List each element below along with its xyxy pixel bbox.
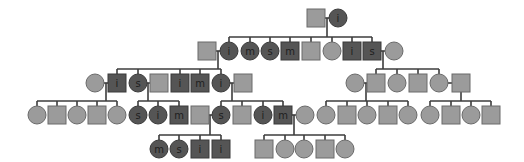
male-individual: m	[274, 106, 292, 124]
male-individual: m	[170, 106, 188, 124]
male-individual	[233, 106, 251, 124]
circle-symbol	[430, 74, 448, 92]
circle-symbol	[388, 74, 406, 92]
square-symbol	[442, 106, 460, 124]
male-individual	[88, 106, 106, 124]
square-symbol	[379, 106, 397, 124]
individual-label: m	[285, 46, 295, 57]
circle-symbol	[323, 42, 341, 60]
circle-symbol	[108, 106, 126, 124]
female-individual: s	[170, 140, 188, 158]
circle-symbol	[346, 74, 364, 92]
individual-label: m	[245, 46, 255, 57]
male-individual	[307, 9, 325, 27]
individual-label: i	[199, 144, 202, 155]
female-individual	[399, 106, 417, 124]
circle-symbol	[385, 42, 403, 60]
male-individual	[191, 106, 209, 124]
square-symbol	[233, 106, 251, 124]
female-individual: m	[150, 140, 168, 158]
square-symbol	[234, 74, 252, 92]
circle-symbol	[295, 140, 313, 158]
male-individual: i	[108, 74, 126, 92]
circle-symbol	[276, 140, 294, 158]
female-individual	[430, 74, 448, 92]
female-individual	[86, 74, 104, 92]
square-symbol	[482, 106, 500, 124]
male-individual	[198, 42, 216, 60]
circle-symbol	[399, 106, 417, 124]
male-individual: s	[363, 42, 381, 60]
male-individual: i	[171, 74, 189, 92]
individual-label: s	[267, 46, 272, 57]
individual-label: i	[351, 46, 354, 57]
individual-label: s	[369, 46, 374, 57]
square-symbol	[367, 74, 385, 92]
female-individual	[68, 106, 86, 124]
male-individual	[367, 74, 385, 92]
female-individual: s	[129, 106, 147, 124]
female-individual	[323, 42, 341, 60]
female-individual: i	[254, 106, 272, 124]
individual-label: i	[228, 46, 231, 57]
square-symbol	[48, 106, 66, 124]
female-individual: s	[261, 42, 279, 60]
square-symbol	[88, 106, 106, 124]
male-individual	[338, 106, 356, 124]
male-individual: i	[343, 42, 361, 60]
female-individual	[108, 106, 126, 124]
individual-label: m	[174, 110, 184, 121]
circle-symbol	[336, 140, 354, 158]
male-individual	[442, 106, 460, 124]
female-individual	[462, 106, 480, 124]
circle-symbol	[317, 106, 335, 124]
male-individual	[302, 42, 320, 60]
male-individual: i	[191, 140, 209, 158]
female-individual	[295, 140, 313, 158]
individual-label: m	[278, 110, 288, 121]
circle-symbol	[421, 106, 439, 124]
individual-label: m	[195, 78, 205, 89]
female-individual: s	[129, 74, 147, 92]
female-individual: m	[241, 42, 259, 60]
individual-label: s	[135, 78, 140, 89]
square-symbol	[338, 106, 356, 124]
female-individual: i	[212, 74, 230, 92]
square-symbol	[409, 74, 427, 92]
male-individual	[409, 74, 427, 92]
male-individual: m	[281, 42, 299, 60]
individual-label: i	[220, 144, 223, 155]
female-individual	[28, 106, 46, 124]
male-individual	[379, 106, 397, 124]
male-individual: i	[212, 140, 230, 158]
female-individual	[358, 106, 376, 124]
individual-label: s	[135, 110, 140, 121]
individual-label: i	[337, 13, 340, 24]
circle-symbol	[28, 106, 46, 124]
female-individual	[346, 74, 364, 92]
female-individual	[385, 42, 403, 60]
square-symbol	[302, 42, 320, 60]
female-individual	[388, 74, 406, 92]
individual-label: i	[220, 78, 223, 89]
male-individual	[255, 140, 273, 158]
female-individual	[336, 140, 354, 158]
female-individual: i	[149, 106, 167, 124]
male-individual	[234, 74, 252, 92]
square-symbol	[198, 42, 216, 60]
individual-label: s	[218, 110, 223, 121]
individual-label: i	[179, 78, 182, 89]
circle-symbol	[358, 106, 376, 124]
square-symbol	[307, 9, 325, 27]
female-individual	[276, 140, 294, 158]
individual-label: i	[157, 110, 160, 121]
male-individual: m	[191, 74, 209, 92]
square-symbol	[150, 74, 168, 92]
male-individual	[150, 74, 168, 92]
male-individual	[316, 140, 334, 158]
male-individual	[482, 106, 500, 124]
female-individual: i	[220, 42, 238, 60]
square-symbol	[191, 106, 209, 124]
male-individual	[452, 74, 470, 92]
female-individual	[296, 106, 314, 124]
